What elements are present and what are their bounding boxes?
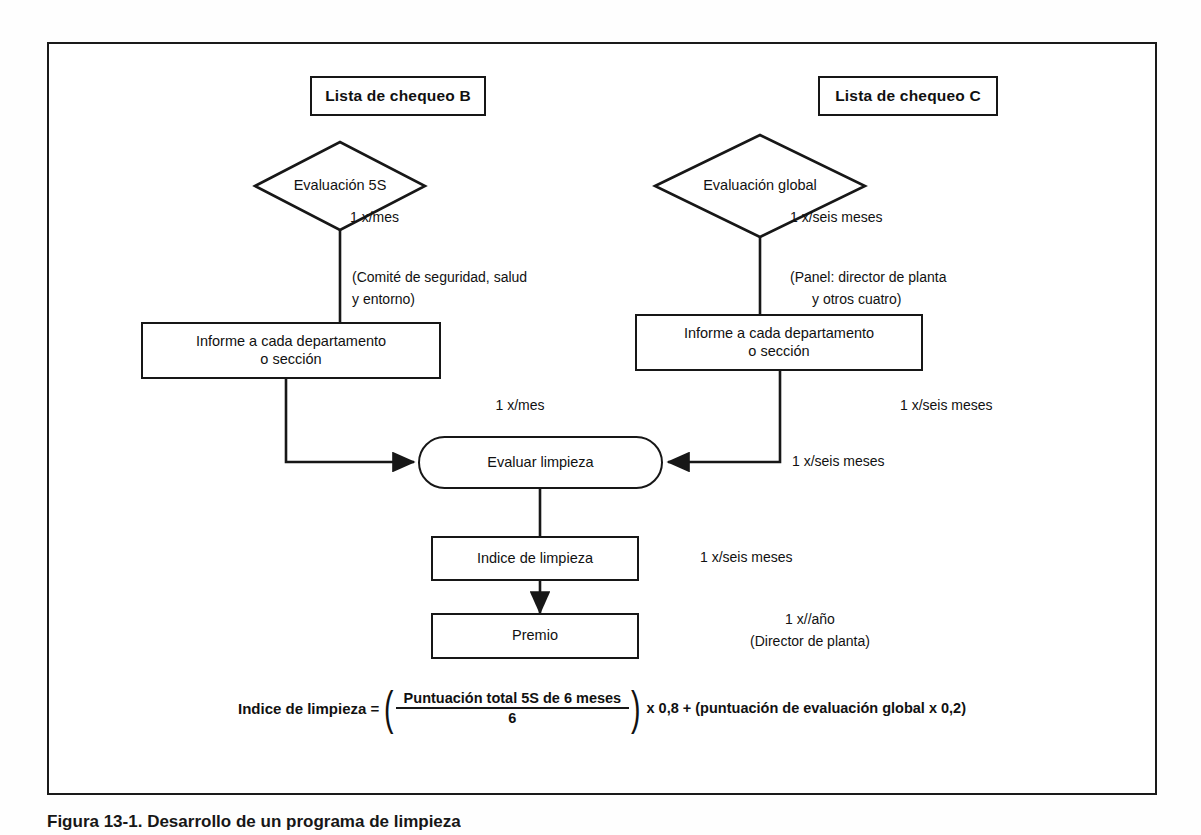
figure-caption: Figura 13-1. Desarrollo de un programa d… — [47, 812, 461, 835]
report-left-line2: o sección — [260, 351, 321, 369]
formula-open-paren: ( — [384, 690, 394, 727]
cleanliness-index-formula: Indice de limpieza = ( Puntuación total … — [47, 690, 1157, 727]
freq-global-annotation: 1 x/seis meses — [790, 208, 970, 227]
freq-right-to-eval-annotation: 1 x/seis meses — [792, 452, 972, 471]
formula-rhs: x 0,8 + (puntuación de evaluación global… — [647, 700, 967, 716]
formula-numerator: Puntuación total 5S de 6 meses — [396, 690, 630, 707]
report-right-line1: Informe a cada departamento — [684, 325, 874, 343]
freq-indice-annotation: 1 x/seis meses — [700, 548, 900, 567]
report-right-line2: o sección — [748, 343, 809, 361]
formula-denominator: 6 — [508, 709, 516, 726]
eval-5s-label: Evaluación 5S — [240, 177, 440, 193]
formula-lhs: Indice de limpieza = — [238, 700, 379, 717]
eval-global-label: Evaluación global — [660, 177, 860, 193]
checklist-c-box[interactable]: Lista de chequeo C — [818, 76, 998, 116]
premio-box[interactable]: Premio — [431, 613, 639, 659]
figure-border — [47, 42, 1157, 795]
freq-right-report-annotation: 1 x/seis meses — [900, 396, 1080, 415]
formula-close-paren: ) — [631, 690, 641, 727]
report-left-box[interactable]: Informe a cada departamento o sección — [141, 322, 441, 379]
checklist-b-label: Lista de chequeo B — [325, 87, 471, 106]
checklist-b-box[interactable]: Lista de chequeo B — [310, 76, 486, 116]
report-right-box[interactable]: Informe a cada departamento o sección — [635, 314, 923, 371]
checklist-c-label: Lista de chequeo C — [835, 87, 981, 106]
indice-limpieza-box[interactable]: Indice de limpieza — [431, 536, 639, 581]
owner-global-line1: (Panel: director de planta — [790, 268, 1050, 287]
freq-left-to-eval-annotation: 1 x/mes — [455, 396, 585, 415]
formula-fraction: Puntuación total 5S de 6 meses 6 — [396, 690, 630, 726]
evaluar-limpieza-node[interactable]: Evaluar limpieza — [418, 436, 663, 489]
owner-premio-annotation: (Director de planta) — [700, 632, 920, 651]
owner-global-line2: y otros cuatro) — [812, 290, 1072, 309]
evaluar-limpieza-label: Evaluar limpieza — [487, 454, 593, 472]
freq-premio-annotation: 1 x//año — [700, 610, 920, 629]
freq-5s-annotation: 1 x/mes — [350, 208, 480, 227]
premio-label: Premio — [512, 627, 558, 645]
indice-limpieza-label: Indice de limpieza — [477, 550, 593, 568]
owner-5s-line1: (Comité de seguridad, salud — [352, 268, 612, 287]
figure-page: Lista de chequeo B Lista de chequeo C Ev… — [0, 0, 1201, 835]
owner-5s-line2: y entorno) — [352, 290, 612, 309]
report-left-line1: Informe a cada departamento — [196, 333, 386, 351]
